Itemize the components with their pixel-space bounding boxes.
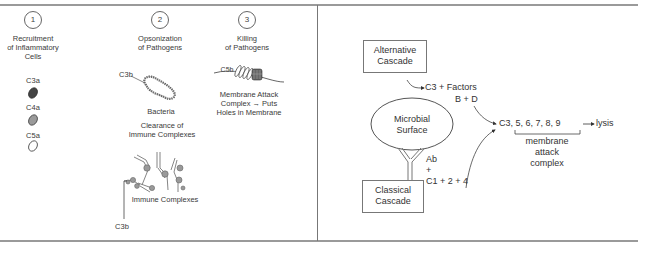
ab-line: +: [426, 165, 486, 176]
mac-label-line: complex: [517, 158, 577, 169]
mac-label-line: attack: [517, 147, 577, 158]
microbial-line: Surface: [382, 125, 442, 136]
classical-box-line: Classical: [363, 185, 423, 196]
mac-label-line: membrane: [517, 136, 577, 147]
alternative-cascade-box: Alternative Cascade: [363, 40, 427, 73]
alternative-box-line: Alternative: [364, 45, 426, 56]
lysis-label: lysis: [596, 118, 626, 129]
classical-box-line: Cascade: [363, 196, 423, 207]
microbial-surface-label: Microbial Surface: [382, 114, 442, 136]
terminal-components: C3, 5, 6, 7, 8, 9: [499, 118, 583, 129]
classical-cascade-box: Classical Cascade: [362, 180, 424, 213]
factors-arrow: [474, 106, 496, 124]
alternative-arrow: [407, 80, 424, 88]
alternative-box-line: Cascade: [364, 56, 426, 67]
mac-label: membrane attack complex: [517, 136, 577, 169]
ab-label: Ab + C1 + 2 + 4: [426, 154, 486, 187]
microbial-line: Microbial: [382, 114, 442, 125]
c3-factors-line1: C3 + Factors: [425, 82, 505, 93]
mac-bracket: [515, 130, 580, 134]
ab-line: Ab: [426, 154, 486, 165]
c3-factors-line2: B + D: [455, 94, 495, 105]
ab-line: C1 + 2 + 4: [426, 176, 486, 187]
